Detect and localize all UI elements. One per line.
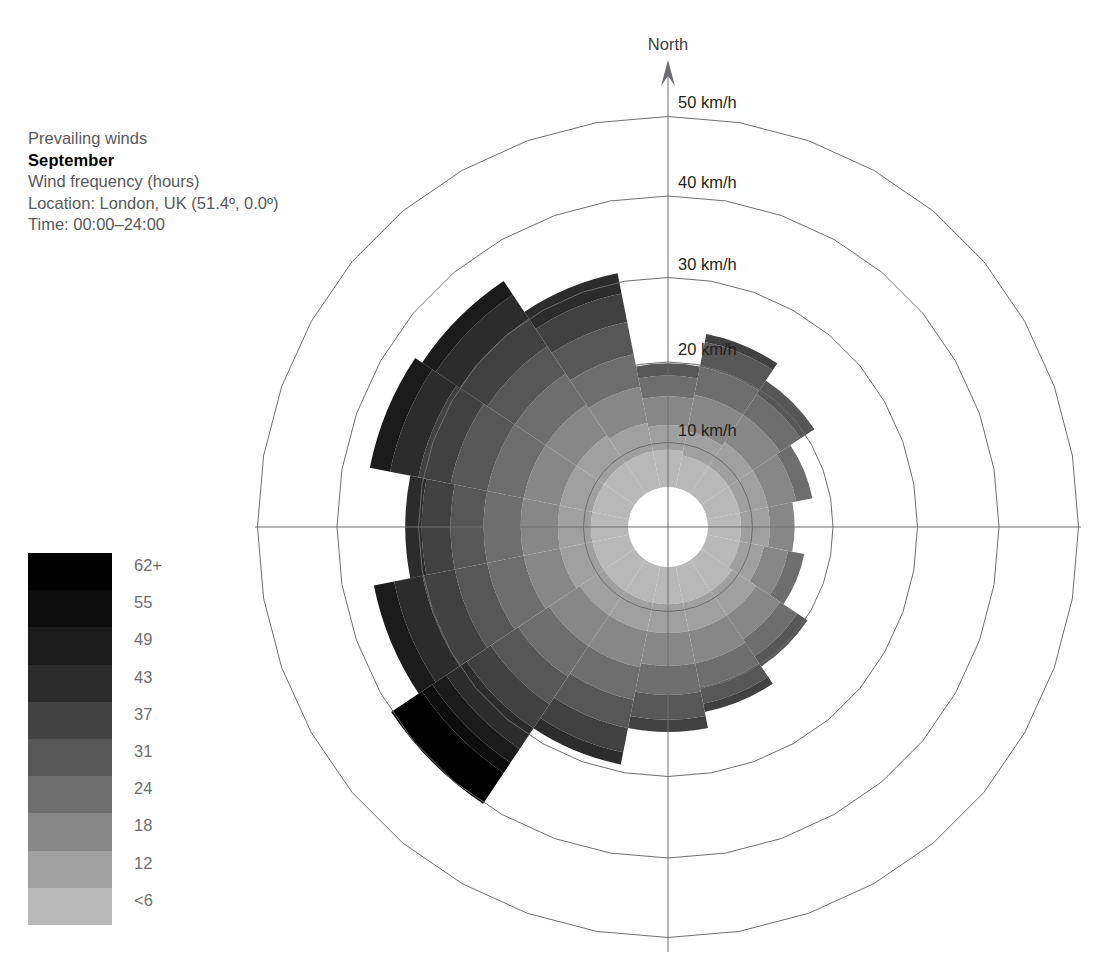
radial-tick-label: 40 km/h [678,173,737,191]
radial-tick-label: 10 km/h [678,421,737,439]
radial-tick-label: 50 km/h [678,93,737,111]
wind-rose-chart: North 10 km/h20 km/h30 km/h40 km/h50 km/… [0,0,1105,955]
wind-sectors [370,273,815,803]
radial-tick-label: 30 km/h [678,255,737,273]
radial-tick-label: 20 km/h [678,340,737,358]
north-label: North [648,35,688,53]
